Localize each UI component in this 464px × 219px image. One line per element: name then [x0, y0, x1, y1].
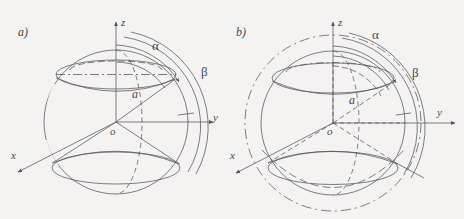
- radius-label-a: a: [132, 88, 138, 100]
- radius-line-lower-b: [333, 123, 398, 164]
- lower-cap-curve-a: [52, 151, 179, 164]
- origin-label-a: o: [110, 126, 116, 137]
- beta-arc-b: [349, 33, 425, 178]
- x-axis-b: [236, 123, 333, 173]
- outer-lower-arc-b: [262, 150, 404, 188]
- x-axis-label-a: x: [11, 150, 16, 161]
- panel-a-drawing: [18, 22, 213, 194]
- alpha-label-b: α: [372, 28, 379, 41]
- radius-line-lower-a: [116, 122, 180, 164]
- z-axis-label-b: z: [338, 17, 342, 28]
- origin-label-b: o: [327, 126, 333, 137]
- panel-label-b: b): [236, 26, 246, 38]
- radius-line-left-a: [53, 122, 117, 163]
- radius-line-a: [116, 79, 176, 122]
- beta-label-a: β: [201, 65, 208, 78]
- beta-arc2-a: [124, 37, 201, 172]
- radius-line-b: [333, 82, 394, 123]
- y-axis-label-b: y: [437, 107, 442, 118]
- beta-label-b: β: [412, 66, 419, 79]
- alpha-label-a: α: [152, 39, 159, 52]
- spherical-coordinates-figure: [0, 0, 464, 219]
- x-axis-a: [18, 122, 116, 172]
- x-axis-label-b: x: [230, 150, 235, 161]
- radius-line-left-b: [268, 123, 333, 163]
- lower-cap-curve-b: [268, 151, 398, 164]
- x-axis-extension-b: [398, 164, 424, 178]
- panel-b-drawing: [236, 22, 455, 211]
- beta-tick-b: [396, 113, 411, 115]
- panel-label-a: a): [18, 26, 28, 38]
- lower-latitude-circle-b: [268, 152, 398, 185]
- alpha-arc2-b: [333, 56, 389, 90]
- beta-tick-a: [178, 113, 194, 115]
- z-axis-label-a: z: [121, 17, 125, 28]
- radius-label-b: a: [349, 94, 355, 106]
- y-axis-label-a: y: [213, 112, 218, 123]
